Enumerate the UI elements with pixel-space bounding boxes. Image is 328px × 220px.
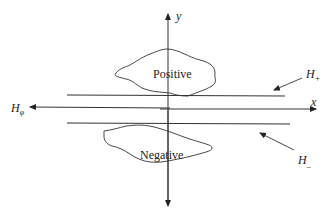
h-zero-base: H <box>11 101 20 115</box>
h-zero-line <box>30 107 170 108</box>
h-plus-label: H+ <box>306 68 320 83</box>
diagram-canvas <box>0 0 328 220</box>
h-zero-label: Hφ <box>11 102 24 117</box>
h-minus-line <box>67 123 290 124</box>
h-plus-pointer <box>274 78 302 90</box>
h-plus-sub: + <box>315 74 320 83</box>
h-minus-sub: _ <box>307 160 311 169</box>
h-plus-base: H <box>306 67 315 81</box>
positive-label: Positive <box>153 68 192 80</box>
h-zero-sub: φ <box>20 108 24 117</box>
x-axis-label: x <box>311 96 316 108</box>
h-minus-label: H_ <box>298 154 311 169</box>
negative-label: Negative <box>140 149 183 161</box>
h-minus-pointer <box>260 133 294 150</box>
h-plus-line <box>67 95 285 96</box>
y-axis-label: y <box>176 10 181 22</box>
h-minus-base: H <box>298 153 307 167</box>
